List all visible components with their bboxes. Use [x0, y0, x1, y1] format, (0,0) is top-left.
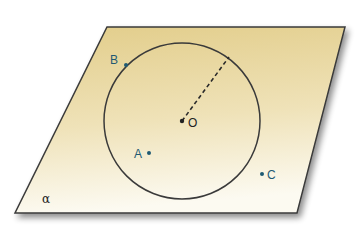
point-c [260, 172, 264, 176]
center-point-o [180, 119, 184, 123]
point-a [147, 151, 151, 155]
label-alpha: α [42, 192, 50, 206]
label-o: O [188, 116, 197, 130]
point-b [124, 63, 128, 67]
label-a: A [134, 147, 142, 161]
plane-alpha [15, 27, 345, 213]
label-c: C [267, 168, 276, 182]
geometry-diagram: O B A C α [0, 0, 360, 233]
label-b: B [110, 53, 118, 67]
